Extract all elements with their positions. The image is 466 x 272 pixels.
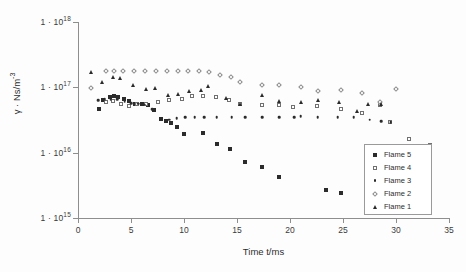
legend-item-label: Flame 2 bbox=[384, 189, 411, 198]
data-point bbox=[89, 70, 93, 74]
data-point bbox=[316, 98, 320, 102]
data-point bbox=[153, 86, 157, 90]
marker-glyph bbox=[372, 191, 378, 197]
data-point bbox=[228, 147, 232, 151]
data-point bbox=[103, 98, 106, 101]
data-point bbox=[277, 82, 283, 88]
data-point bbox=[123, 101, 126, 104]
data-point bbox=[100, 80, 104, 84]
data-point bbox=[144, 87, 148, 91]
x-tick bbox=[237, 218, 238, 223]
data-point bbox=[244, 116, 247, 119]
legend-item: Flame 2 bbox=[370, 187, 431, 200]
data-point bbox=[298, 84, 304, 90]
data-point bbox=[175, 117, 178, 120]
x-tick bbox=[343, 218, 344, 223]
y-axis-line bbox=[78, 22, 79, 218]
data-point bbox=[237, 79, 243, 85]
data-point bbox=[137, 102, 140, 105]
legend-marker-icon bbox=[370, 163, 380, 173]
y-tick-label: 1 · 1016 bbox=[40, 148, 71, 158]
data-point bbox=[156, 100, 160, 104]
data-point bbox=[339, 107, 343, 111]
data-point bbox=[196, 68, 202, 74]
data-point bbox=[130, 102, 133, 105]
marker-glyph bbox=[373, 166, 377, 170]
data-point bbox=[110, 98, 113, 101]
data-point bbox=[260, 165, 264, 169]
data-point bbox=[176, 92, 180, 96]
data-point bbox=[111, 68, 117, 74]
data-point bbox=[337, 100, 341, 104]
x-tick-label: 0 bbox=[76, 225, 81, 235]
data-point bbox=[393, 86, 399, 92]
data-point bbox=[352, 116, 355, 119]
y-tick-label: 1 · 1018 bbox=[40, 17, 71, 27]
x-tick-label: 5 bbox=[129, 225, 134, 235]
data-point bbox=[159, 117, 162, 120]
data-point bbox=[180, 97, 184, 101]
data-point bbox=[116, 98, 119, 101]
data-point bbox=[380, 120, 383, 123]
data-point bbox=[168, 118, 171, 121]
y-tick-label: 1 · 1015 bbox=[40, 213, 71, 223]
data-point bbox=[315, 104, 319, 108]
data-point bbox=[238, 102, 242, 106]
data-point bbox=[324, 188, 328, 192]
data-point bbox=[193, 116, 196, 119]
data-point bbox=[203, 116, 206, 119]
x-tick-label: 30 bbox=[391, 225, 400, 235]
x-tick-label: 10 bbox=[179, 225, 188, 235]
marker-glyph bbox=[373, 153, 377, 157]
data-point bbox=[201, 94, 205, 98]
marker-glyph bbox=[374, 179, 377, 182]
data-point bbox=[143, 104, 146, 107]
data-point bbox=[201, 131, 205, 135]
y-tick bbox=[73, 22, 79, 23]
x-tick-label: 15 bbox=[232, 225, 241, 235]
data-point bbox=[104, 100, 108, 104]
x-tick bbox=[290, 218, 291, 223]
data-point bbox=[175, 125, 179, 129]
legend-marker-icon bbox=[370, 202, 380, 212]
data-point bbox=[224, 96, 228, 100]
data-point bbox=[199, 88, 203, 92]
data-point bbox=[97, 99, 100, 102]
data-point bbox=[190, 94, 194, 98]
legend-marker-icon bbox=[370, 150, 380, 160]
x-tick-label: 25 bbox=[338, 225, 347, 235]
data-point bbox=[338, 87, 344, 93]
scatter-chart-figure: γ · Ns/m-3 1 · 10151 · 10161 · 10171 · 1… bbox=[0, 0, 466, 272]
data-point bbox=[187, 89, 191, 93]
y-tick bbox=[73, 153, 79, 154]
data-point bbox=[131, 68, 137, 74]
data-point bbox=[277, 99, 281, 103]
data-point bbox=[366, 102, 370, 106]
data-point bbox=[154, 68, 160, 74]
legend-item-label: Flame 3 bbox=[384, 176, 411, 185]
x-tick bbox=[78, 218, 79, 223]
x-axis-title: Time t/ms bbox=[78, 246, 449, 257]
data-point bbox=[228, 75, 234, 81]
data-point bbox=[316, 116, 319, 119]
data-point bbox=[336, 116, 339, 119]
y-axis-title-base: γ · Ns/m bbox=[11, 79, 22, 114]
data-point bbox=[97, 107, 101, 111]
x-tick bbox=[184, 218, 185, 223]
data-point bbox=[261, 116, 264, 119]
legend-item: Flame 1 bbox=[370, 200, 431, 213]
legend-item-label: Flame 1 bbox=[384, 202, 411, 211]
data-point bbox=[185, 68, 191, 74]
data-point bbox=[278, 116, 281, 119]
data-point bbox=[182, 132, 186, 136]
data-point bbox=[214, 95, 218, 99]
data-point bbox=[260, 103, 264, 107]
data-point bbox=[389, 121, 392, 124]
data-point bbox=[299, 115, 302, 118]
marker-glyph bbox=[373, 205, 377, 209]
data-point bbox=[368, 118, 371, 121]
data-point bbox=[407, 137, 411, 141]
data-point bbox=[169, 121, 173, 125]
data-point bbox=[291, 105, 295, 109]
data-point bbox=[88, 86, 94, 92]
